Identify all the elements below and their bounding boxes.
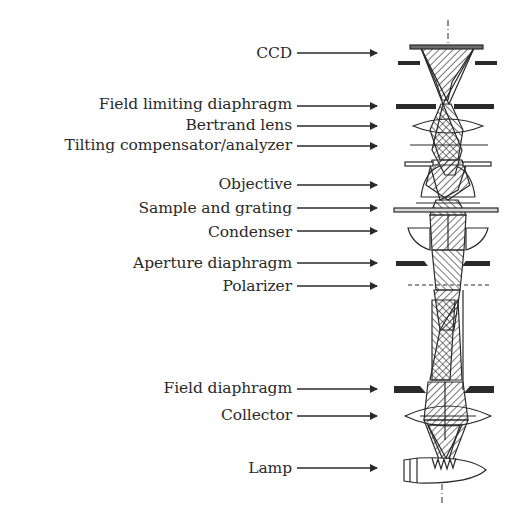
field-limiting-diaphragm-left (396, 104, 436, 109)
aperture-diaphragm-right (462, 261, 490, 266)
light-beams (421, 48, 474, 462)
field-limiting-diaphragm-right (454, 104, 494, 109)
field-diaphragm-right (464, 386, 494, 393)
sample-slide (394, 208, 498, 212)
ccd-plate (410, 45, 483, 49)
condenser-left (408, 228, 430, 250)
microscope-diagram: CCD Field limiting diaphragm Bertrand le… (0, 0, 528, 523)
leader-arrows (297, 53, 377, 468)
analyzer-left (405, 162, 433, 166)
field-diaphragm-left (394, 386, 426, 393)
analyzer-right (463, 162, 491, 166)
optical-path-svg (0, 0, 528, 523)
condenser-right (466, 228, 488, 250)
aperture-diaphragm-left (396, 261, 428, 266)
